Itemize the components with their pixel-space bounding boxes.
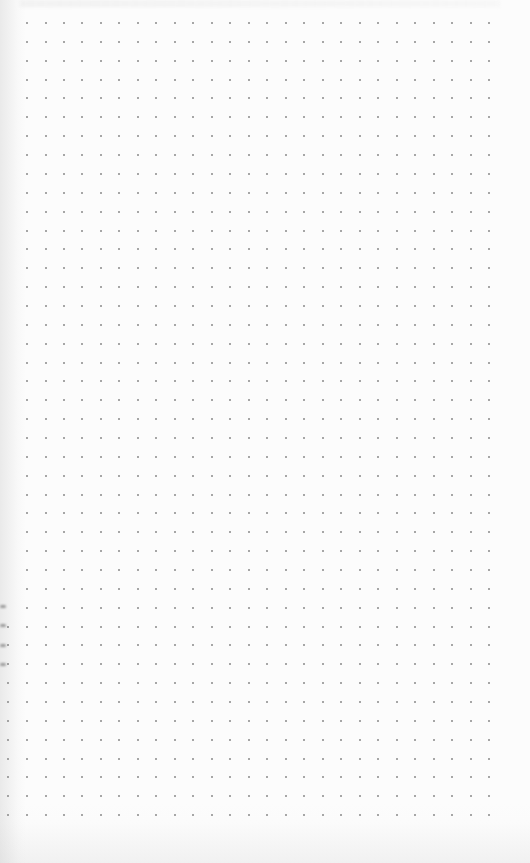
edge-marker	[0, 663, 6, 666]
edge-marker	[0, 644, 6, 647]
dot-grid-paper	[0, 0, 530, 863]
edge-marker	[0, 624, 6, 627]
edge-marker	[0, 605, 6, 608]
edge-markers	[0, 0, 530, 863]
